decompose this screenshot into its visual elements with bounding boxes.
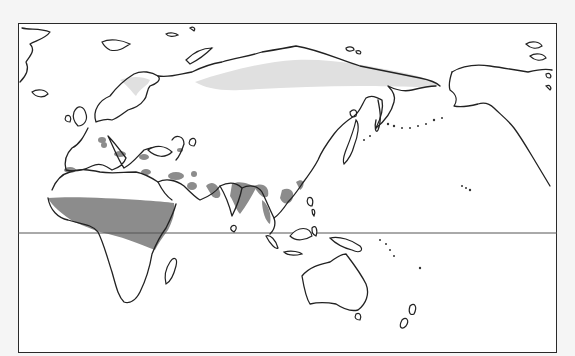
map-page [0,0,575,356]
range-light-scandinavia [120,77,150,96]
island-dots [363,117,471,269]
world-map [0,0,575,356]
range-dark-sahel [48,197,175,250]
